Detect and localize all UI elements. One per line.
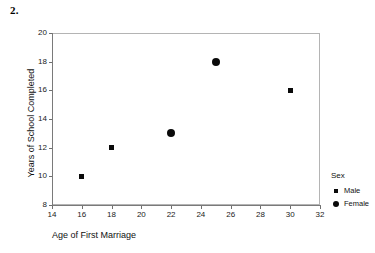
x-tick	[290, 206, 291, 209]
y-tick	[49, 176, 52, 177]
x-tick	[320, 206, 321, 209]
x-tick	[141, 206, 142, 209]
y-axis-line	[52, 33, 53, 206]
y-tick	[49, 62, 52, 63]
x-tick	[171, 206, 172, 209]
y-tick-label: 20	[30, 28, 47, 37]
x-tick	[112, 206, 113, 209]
x-tick-label: 14	[41, 210, 63, 219]
x-axis-line	[52, 205, 321, 206]
x-tick	[201, 206, 202, 209]
x-axis-title: Age of First Marriage	[52, 230, 232, 240]
legend-item-male[interactable]: Male	[331, 185, 375, 196]
circle-marker-icon	[331, 201, 341, 207]
data-point-male	[109, 145, 114, 150]
y-tick	[49, 148, 52, 149]
legend-item-label: Female	[344, 199, 369, 208]
x-tick-label: 32	[309, 210, 331, 219]
x-tick-label: 16	[71, 210, 93, 219]
data-point-female	[212, 58, 220, 66]
y-tick	[49, 33, 52, 34]
legend-item-label: Male	[344, 186, 360, 195]
x-tick-label: 24	[190, 210, 212, 219]
legend-title: Sex	[331, 171, 375, 180]
x-tick-label: 28	[249, 210, 271, 219]
legend-entries: MaleFemale	[331, 185, 375, 209]
scatter-chart: 14161820222426283032 8101214161820 Age o…	[0, 0, 375, 253]
x-tick	[82, 206, 83, 209]
x-tick-label: 18	[101, 210, 123, 219]
legend-item-female[interactable]: Female	[331, 198, 375, 209]
x-tick-label: 20	[130, 210, 152, 219]
y-tick	[49, 90, 52, 91]
x-tick-label: 26	[220, 210, 242, 219]
y-tick	[49, 205, 52, 206]
data-point-male	[288, 88, 293, 93]
x-tick	[52, 206, 53, 209]
square-marker-icon	[331, 189, 341, 193]
plot-frame	[52, 33, 320, 205]
legend: Sex MaleFemale	[331, 171, 375, 211]
x-tick-label: 22	[160, 210, 182, 219]
data-point-male	[79, 174, 84, 179]
x-tick-label: 30	[279, 210, 301, 219]
y-axis-title: Years of School Completed	[26, 48, 36, 198]
y-tick-label: 8	[30, 200, 47, 209]
y-tick	[49, 119, 52, 120]
x-tick	[260, 206, 261, 209]
x-tick	[231, 206, 232, 209]
